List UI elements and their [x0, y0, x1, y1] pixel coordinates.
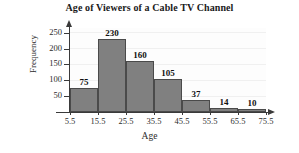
bar-value-label: 10 [235, 98, 269, 108]
bar-value-label: 105 [151, 68, 185, 78]
bar [126, 61, 154, 112]
x-tick-mark [70, 112, 71, 115]
x-tick-label: 15.5 [83, 116, 113, 126]
y-tick-mark [64, 49, 70, 50]
y-tick-label: 150 [36, 58, 62, 68]
y-axis-arrow-icon [66, 20, 72, 27]
x-tick-mark [266, 112, 267, 115]
x-axis-arrow-icon [268, 109, 275, 115]
x-tick-label: 75.5 [251, 116, 281, 126]
bar-value-label: 75 [67, 77, 101, 87]
bar-value-label: 160 [123, 50, 157, 60]
y-tick-label: 50 [36, 90, 62, 100]
x-tick-mark [154, 112, 155, 115]
x-tick-label: 55.5 [195, 116, 225, 126]
x-tick-label: 65.5 [223, 116, 253, 126]
x-tick-mark [182, 112, 183, 115]
x-axis-title: Age [0, 131, 299, 141]
y-tick-label: 200 [36, 43, 62, 53]
bar [70, 88, 98, 112]
chart-title: Age of Viewers of a Cable TV Channel [0, 2, 299, 13]
x-tick-label: 25.5 [111, 116, 141, 126]
y-tick-label: 250 [36, 27, 62, 37]
x-tick-mark [98, 112, 99, 115]
x-tick-mark [210, 112, 211, 115]
bar [210, 108, 238, 112]
y-tick-mark [64, 64, 70, 65]
bar-value-label: 230 [95, 28, 129, 38]
x-tick-label: 45.5 [167, 116, 197, 126]
bar [238, 109, 266, 112]
chart-screenshot: Age of Viewers of a Cable TV Channel Fre… [0, 0, 299, 153]
bar [182, 100, 210, 112]
x-tick-label: 5.5 [55, 116, 85, 126]
y-tick-label: 100 [36, 74, 62, 84]
y-tick-mark [64, 33, 70, 34]
x-tick-mark [238, 112, 239, 115]
x-tick-mark [126, 112, 127, 115]
bar [154, 79, 182, 112]
bar [98, 39, 126, 112]
x-tick-label: 35.5 [139, 116, 169, 126]
